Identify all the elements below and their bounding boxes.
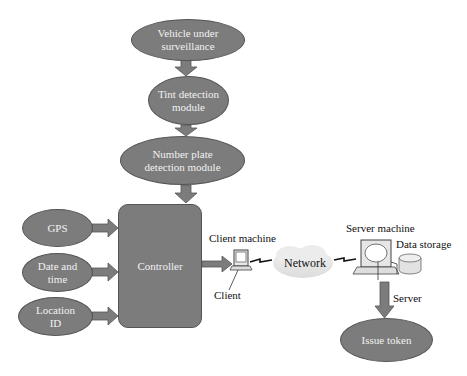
node-text: Issue token bbox=[362, 334, 412, 347]
arrow-location-to-controller bbox=[92, 307, 118, 325]
label-server-machine: Server machine bbox=[346, 222, 415, 234]
arrow-vehicle-to-tint bbox=[175, 60, 197, 76]
arrow-server-to-issue-token bbox=[375, 282, 394, 318]
computer-server-icon bbox=[353, 240, 399, 280]
node-text-line: module bbox=[172, 101, 205, 113]
arrow-plate-to-controller bbox=[175, 185, 197, 203]
node-text: GPS bbox=[47, 222, 67, 235]
node-text-line: Date and bbox=[38, 260, 77, 272]
node-location-id: Location ID bbox=[18, 297, 93, 336]
node-tint-detection-module: Tint detection module bbox=[148, 76, 229, 125]
node-text-line: Number plate bbox=[152, 148, 212, 160]
node-text-line: Vehicle under bbox=[158, 27, 219, 39]
arrow-datetime-to-controller bbox=[92, 263, 118, 281]
node-text-line: time bbox=[48, 273, 68, 285]
computer-client-icon bbox=[229, 250, 252, 290]
database-icon bbox=[399, 254, 421, 274]
node-text-line: surveillance bbox=[161, 40, 214, 52]
label-network: Network bbox=[284, 256, 326, 271]
arrow-controller-to-client bbox=[202, 256, 232, 272]
label-client-machine: Client machine bbox=[209, 232, 276, 244]
node-controller: Controller bbox=[118, 204, 202, 328]
node-text-line: Location bbox=[36, 304, 75, 316]
network-link-client bbox=[250, 259, 272, 262]
network-link-server bbox=[334, 258, 356, 261]
node-vehicle-under-surveillance: Vehicle under surveillance bbox=[131, 19, 245, 61]
arrow-tint-to-plate bbox=[175, 125, 197, 136]
node-text-line: ID bbox=[50, 317, 62, 329]
node-number-plate-detection-module: Number plate detection module bbox=[120, 136, 245, 185]
node-text-line: Tint detection bbox=[158, 88, 219, 100]
node-date-and-time: Date and time bbox=[22, 253, 93, 292]
label-server: Server bbox=[393, 292, 422, 304]
label-client: Client bbox=[214, 289, 241, 301]
node-text: Controller bbox=[137, 260, 182, 273]
node-issue-token: Issue token bbox=[340, 318, 433, 362]
node-text-line: detection module bbox=[144, 161, 220, 173]
node-gps: GPS bbox=[22, 209, 93, 247]
label-data-storage: Data storage bbox=[396, 238, 451, 250]
arrow-gps-to-controller bbox=[92, 219, 118, 237]
